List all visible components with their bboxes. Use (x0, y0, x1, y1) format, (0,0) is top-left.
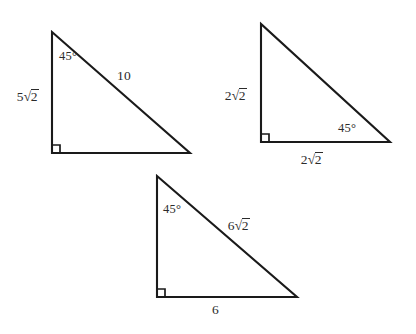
triangle-3-right-angle-icon (157, 289, 165, 297)
triangle-3-angle-label: 45° (163, 203, 181, 216)
radical-expression: 2√2 (224, 88, 247, 103)
radical-coefficient: 2 (225, 88, 232, 103)
radicand: 2 (239, 88, 247, 103)
triangle-2-group (261, 24, 390, 142)
triangle-3-group (157, 176, 297, 297)
triangle-2-leg-label: 2√2 (224, 88, 247, 103)
triangle-3-hypotenuse-label: 6√2 (227, 218, 250, 233)
radical-expression: 6√2 (227, 218, 250, 233)
triangle-2-outline (261, 24, 390, 142)
radical-expression: 2√2 (300, 152, 323, 167)
triangle-1-angle-label: 45° (59, 50, 77, 63)
radical-expression: 5√2 (16, 89, 39, 104)
radicand: 2 (242, 218, 250, 233)
radicand: 2 (31, 89, 39, 104)
triangle-1-right-angle-icon (52, 145, 60, 153)
radicand: 2 (315, 152, 323, 167)
triangle-2-angle-label: 45° (338, 122, 356, 135)
triangle-1-leg-label: 5√2 (16, 89, 39, 104)
triangle-1-hypotenuse-label: 10 (117, 69, 131, 83)
radical-coefficient: 5 (17, 89, 24, 104)
triangle-2-right-angle-icon (261, 134, 269, 142)
geometry-figure: 45° 5√2 10 2√2 45° 2√2 45° 6√2 6 (0, 0, 416, 334)
radical-coefficient: 6 (228, 218, 235, 233)
triangle-2-base-label: 2√2 (300, 152, 323, 167)
triangle-3-outline (157, 176, 297, 297)
radical-coefficient: 2 (301, 152, 308, 167)
triangle-3-base-label: 6 (212, 303, 219, 317)
